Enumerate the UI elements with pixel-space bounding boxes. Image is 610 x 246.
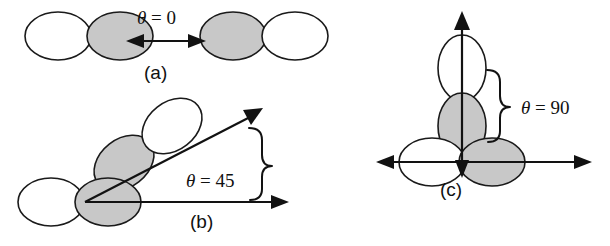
panel-c-angle-label: θ = 90 (521, 97, 570, 118)
panel-c: θ = 90 (c) (376, 11, 592, 200)
panel-b: θ = 45 (b) (18, 87, 289, 232)
figure-canvas: θ = 0 (a) θ = 45 (b) (0, 0, 610, 246)
panel-a-label: (a) (144, 62, 167, 83)
orbital-lobe-filled (200, 12, 266, 60)
orbital-lobe-empty (25, 12, 91, 60)
panel-c-label: (c) (440, 179, 462, 200)
panel-c-angle-brace (487, 70, 510, 142)
panel-b-angle-label: θ = 45 (186, 170, 235, 191)
arrow-head-left-icon (376, 155, 394, 169)
panel-a-left-orbital-pair (25, 12, 153, 60)
arrow-head-up-icon (454, 11, 470, 30)
panel-a-angle-label: θ = 0 (137, 7, 176, 28)
arrow-head-diagonal-icon (243, 108, 263, 125)
panel-b-label: (b) (190, 211, 213, 232)
panel-b-angle-brace (249, 128, 272, 200)
panel-a-right-orbital-pair (200, 12, 328, 60)
arrow-head-right-icon (574, 155, 592, 169)
orbital-overlap-figure: θ = 0 (a) θ = 45 (b) (0, 0, 610, 246)
arrow-head-horizontal-icon (271, 195, 289, 209)
panel-a: θ = 0 (a) (25, 7, 328, 83)
orbital-lobe-empty (262, 12, 328, 60)
orbital-lobe-empty (18, 178, 84, 226)
